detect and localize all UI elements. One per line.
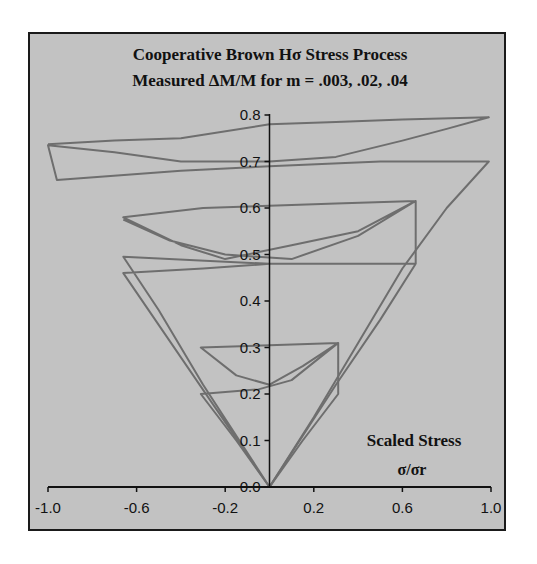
- x-tick-label: -0.2: [212, 499, 238, 516]
- y-tick-label: 0.5: [240, 246, 261, 263]
- y-tick-label: 0.3: [240, 339, 261, 356]
- y-tick-label: 0.1: [240, 432, 261, 449]
- chart-title: Cooperative Brown Hσ Stress Process: [133, 45, 408, 64]
- x-tick-label: -0.6: [124, 499, 150, 516]
- y-tick-label: 0.4: [240, 292, 261, 309]
- x-axis-title: Scaled Stress: [367, 431, 462, 450]
- x-axis-title-symbol: σ/σr: [398, 461, 427, 478]
- x-tick-label: 0.2: [303, 499, 324, 516]
- x-tick-label: 0.6: [392, 499, 413, 516]
- x-tick-label: 1.0: [481, 499, 502, 516]
- y-tick-label: 0.6: [240, 199, 261, 216]
- y-tick-label: 0.0: [240, 478, 261, 495]
- y-tick-label: 0.7: [240, 153, 261, 170]
- chart-subtitle: Measured ΔM/M for m = .003, .02, .04: [132, 71, 408, 90]
- x-tick-label: -1.0: [35, 499, 61, 516]
- x-axis-ticks: -1.0-0.6-0.20.20.61.0: [35, 487, 501, 516]
- y-axis-ticks: 0.00.10.20.30.40.50.60.70.8: [240, 106, 270, 495]
- y-tick-label: 0.8: [240, 106, 261, 123]
- y-tick-label: 0.2: [240, 385, 261, 402]
- chart-plot: Cooperative Brown Hσ Stress Process Meas…: [0, 0, 537, 564]
